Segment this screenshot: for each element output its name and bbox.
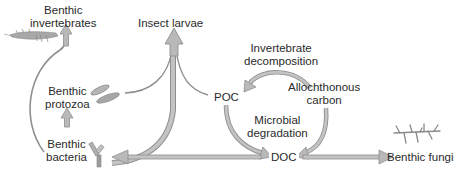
node-label-line1: Benthic (45, 85, 90, 98)
node-label-line1: DOC (271, 151, 297, 164)
node-doc: DOC (269, 151, 299, 164)
node-label-line2: protozoa (45, 98, 90, 111)
fungi-icon (394, 124, 440, 143)
node-label-line2: invertebrates (30, 17, 96, 30)
process-microbial-degradation: Microbial degradation (247, 114, 308, 140)
node-poc: POC (214, 91, 239, 104)
node-label-line1: Benthic (46, 138, 87, 151)
process-label-line2: decomposition (244, 55, 318, 68)
node-label-line1: Allochthonous (288, 81, 360, 94)
protozoa-icon (90, 83, 121, 105)
node-benthic-fungi: Benthic fungi (387, 151, 454, 164)
process-label-line2: degradation (247, 127, 308, 140)
node-benthic-invertebrates: Benthic invertebrates (30, 4, 96, 30)
node-label-line1: Benthic (30, 4, 96, 17)
node-label-line1: POC (214, 91, 239, 104)
node-label-line1: Insect larvae (138, 17, 203, 30)
node-label-line2: bacteria (46, 151, 87, 164)
bacteria-icon (89, 142, 104, 167)
node-allochthonous-carbon: Allochthonous carbon (288, 81, 360, 107)
process-label-line1: Invertebrate (244, 42, 318, 55)
node-benthic-bacteria: Benthic bacteria (46, 138, 87, 164)
process-label-line1: Microbial (247, 114, 308, 127)
node-label-line1: Benthic fungi (387, 151, 454, 164)
process-invertebrate-decomposition: Invertebrate decomposition (244, 42, 318, 68)
node-insect-larvae: Insect larvae (138, 17, 203, 30)
node-benthic-protozoa: Benthic protozoa (45, 85, 90, 111)
node-label-line2: carbon (288, 94, 360, 107)
shrimp-icon (4, 29, 58, 42)
